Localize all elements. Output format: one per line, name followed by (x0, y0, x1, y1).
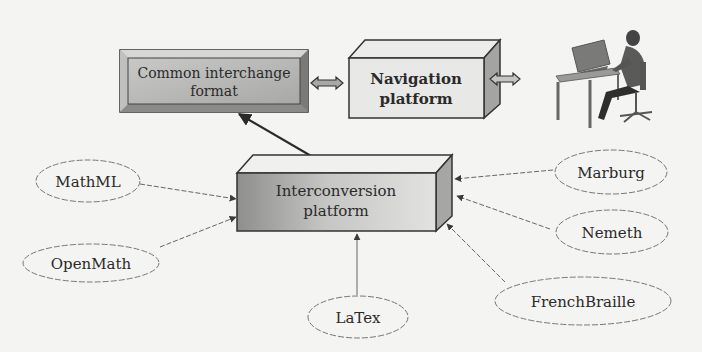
format-node-nemeth: Nemeth (556, 210, 668, 254)
interconversion-label-line2: platform (303, 202, 368, 220)
format-node-mathml: MathML (36, 160, 140, 202)
format-node-latex: LaTex (308, 296, 408, 338)
double-arrow-icon (311, 77, 343, 89)
interconversion-label-line1: Interconversion (276, 182, 397, 200)
openmath-label: OpenMath (51, 255, 132, 273)
format-node-openmath: OpenMath (23, 244, 159, 282)
navigation-label-line2: platform (379, 90, 452, 108)
navigation-label-line1: Navigation (370, 70, 462, 88)
common-interchange-label-line1: Common interchange (137, 65, 290, 81)
mathml-label: MathML (55, 173, 120, 191)
navigation-platform-box: Navigation platform (349, 40, 500, 118)
format-node-marburg: Marburg (555, 150, 667, 194)
format-node-frenchbraille: FrenchBraille (495, 277, 671, 325)
interconversion-platform-box: Interconversion platform (237, 155, 452, 231)
latex-label: LaTex (335, 309, 381, 327)
frenchbraille-label: FrenchBraille (531, 293, 636, 311)
diagram-canvas: Common interchange format Navigation pla… (0, 0, 702, 352)
double-arrow-icon (490, 73, 520, 85)
user-at-computer-icon (556, 30, 652, 128)
common-interchange-box: Common interchange format (120, 50, 308, 112)
common-interchange-label-line2: format (190, 83, 238, 99)
nemeth-label: Nemeth (582, 224, 643, 242)
marburg-label: Marburg (577, 164, 645, 182)
